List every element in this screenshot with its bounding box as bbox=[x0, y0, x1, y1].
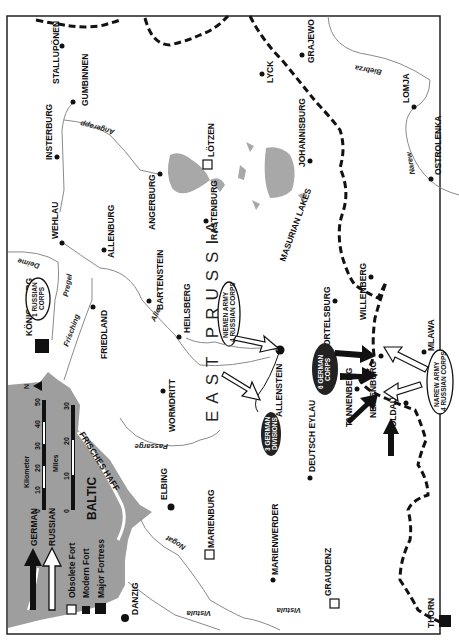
miles-tick-10: 10 bbox=[63, 472, 70, 480]
obsolete-fort-icon bbox=[67, 605, 76, 614]
label-graudenz: GRAUDENZ bbox=[323, 548, 333, 596]
label-allenstein: ALLENSTEIN bbox=[274, 364, 284, 417]
north-label: N bbox=[23, 384, 30, 389]
label-lyck: LYCK bbox=[265, 60, 275, 83]
label-wehlau: WEHLAU bbox=[50, 202, 60, 239]
km-tick-10: 10 bbox=[34, 486, 41, 494]
label-angerburg: ANGERBURG bbox=[147, 174, 157, 230]
town-dot-insterburg bbox=[55, 155, 60, 160]
river-label-vistula: Vistula bbox=[187, 609, 211, 618]
km-tick-50: 50 bbox=[34, 398, 41, 406]
svg-text:DIVISIONS: DIVISIONS bbox=[271, 416, 278, 450]
label-wormditt: WORMDRITT bbox=[167, 378, 177, 432]
svg-text:1 RUSSIAN: 1 RUSSIAN bbox=[31, 282, 38, 317]
svg-text:3 GERMAN: 3 GERMAN bbox=[264, 416, 271, 451]
unit-1-russian-corps: 1 RUSSIAN CORPS bbox=[26, 278, 50, 320]
town-dot-wormditt bbox=[161, 389, 166, 394]
town-dot-ostrolenka bbox=[429, 177, 434, 182]
label-gumbinnen: GUMBINNEN bbox=[80, 54, 90, 106]
label-loetzen: LÖTZEN bbox=[206, 123, 216, 157]
label-neidenburg: NEIDENBURG bbox=[368, 360, 378, 418]
label-heilsberg: HEILSBERG bbox=[182, 283, 192, 333]
town-dot-friedland bbox=[91, 305, 96, 310]
label-elbing: ELBING bbox=[159, 468, 169, 501]
unit-6-german-corps: 6 GERMAN CORPS bbox=[312, 343, 338, 395]
label-mlawa: MLAWA bbox=[426, 319, 436, 351]
label-marienwerder: MARIENWERDER bbox=[270, 504, 280, 575]
town-dot-ortelsburg bbox=[333, 299, 338, 304]
legend-obsolete-fort-label: Obsolete Fort bbox=[67, 543, 77, 598]
label-allenburg: ALLENBURG bbox=[106, 204, 116, 258]
major-fortress-icon bbox=[95, 603, 106, 614]
svg-text:CORPS: CORPS bbox=[324, 357, 331, 381]
town-dot-elbing bbox=[168, 504, 175, 511]
town-dot-danzig bbox=[121, 614, 129, 622]
miles-tick-20: 20 bbox=[63, 437, 70, 445]
town-dot-heilsberg bbox=[177, 335, 182, 340]
fort-loetzen bbox=[203, 160, 212, 169]
svg-text:CORPS: CORPS bbox=[38, 286, 45, 310]
town-dot-angerburg bbox=[158, 172, 163, 177]
label-grajewo: GRAJEWO bbox=[306, 19, 316, 63]
label-johannisburg: JOHANNISBURG bbox=[297, 98, 307, 167]
km-tick-20: 20 bbox=[34, 464, 41, 472]
label-ostrolenka: OSTROLENKA bbox=[433, 116, 443, 176]
km-tick-0: 0 bbox=[34, 509, 41, 513]
map-canvas: GERMAN RUSSIAN Obsolete Fort Modern Fort… bbox=[0, 0, 459, 640]
town-dot-wehlau bbox=[60, 241, 65, 246]
baltic-label: BALTIC bbox=[85, 477, 99, 520]
label-willenberg: WILLENBERG bbox=[358, 262, 368, 320]
modern-fort-icon bbox=[82, 606, 90, 614]
label-bartenstein: BARTENSTEIN bbox=[155, 250, 165, 310]
unit-narew-army: NAREW ARMY 4 RUSSIAN CORPS bbox=[427, 350, 453, 414]
svg-text:4 RUSSIAN CORPS: 4 RUSSIAN CORPS bbox=[440, 351, 447, 411]
label-danzig: DANZIG bbox=[130, 582, 140, 615]
svg-text:4 RUSSIAN CORPS: 4 RUSSIAN CORPS bbox=[229, 282, 236, 342]
town-dot-gumbinnen bbox=[71, 100, 76, 105]
label-thorn: THORN bbox=[426, 598, 436, 628]
fortress-koenigsberg bbox=[35, 339, 49, 353]
label-friedland: FRIEDLAND bbox=[99, 310, 109, 359]
town-dot-neidenburg bbox=[379, 354, 384, 359]
label-lomja: LOMJA bbox=[401, 73, 411, 103]
miles-tick-30: 30 bbox=[63, 402, 70, 410]
km-tick-40: 40 bbox=[34, 420, 41, 428]
fort-graudenz bbox=[330, 599, 339, 608]
miles-tick-0: 0 bbox=[63, 509, 70, 513]
town-dot-johannisburg bbox=[308, 159, 313, 164]
town-dot-lomja bbox=[412, 105, 417, 110]
km-scale-bar bbox=[42, 400, 46, 510]
label-marienburg: MARIENBURG bbox=[206, 489, 216, 548]
legend-russian-label: RUSSIAN bbox=[47, 508, 57, 546]
unit-3-german-divisions: 3 GERMAN DIVISIONS bbox=[261, 412, 281, 456]
town-dot-marienwerder bbox=[271, 578, 276, 583]
town-dot-bartenstein bbox=[147, 299, 152, 304]
miles-label: Miles bbox=[52, 454, 59, 472]
label-deutsch-eylau: DEUTSCH EYLAU bbox=[307, 400, 317, 472]
town-dot-willenberg bbox=[369, 275, 374, 280]
town-dot-lyck bbox=[260, 72, 265, 77]
km-tick-30: 30 bbox=[34, 442, 41, 450]
town-dot-tannenberg bbox=[355, 387, 360, 392]
svg-text:6 GERMAN: 6 GERMAN bbox=[317, 354, 324, 389]
svg-text:NIEMEN ARMY: NIEMEN ARMY bbox=[222, 291, 229, 338]
label-insterburg: INSTERBURG bbox=[44, 103, 54, 160]
river-label-passarge: Passarge bbox=[135, 442, 168, 451]
town-dot-soldau bbox=[404, 401, 409, 406]
fort-marienburg bbox=[205, 550, 214, 559]
svg-text:NAREW ARMY: NAREW ARMY bbox=[433, 361, 440, 407]
label-ortelsburg: ORTELSBURG bbox=[322, 286, 332, 346]
km-label: Kilometer bbox=[23, 455, 30, 488]
town-dot-deutsch-eylau bbox=[308, 476, 313, 481]
legend-modern-fort-label: Modern Fort bbox=[81, 548, 91, 598]
legend-major-fortress-label: Major Fortress bbox=[96, 539, 106, 598]
river-label-vistula-2: Vistula bbox=[277, 606, 301, 615]
town-dot-grajewo bbox=[300, 53, 305, 58]
fortress-thorn bbox=[439, 615, 451, 627]
label-stallupoenen: STALLUPÖNEN bbox=[51, 21, 61, 84]
